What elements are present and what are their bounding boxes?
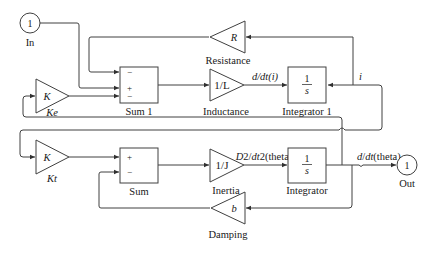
ke-label: Ke	[45, 107, 58, 118]
sum1-label: Sum 1	[125, 106, 152, 117]
integrator1-block[interactable]: 1 s	[288, 67, 326, 103]
integrator-numerator: 1	[305, 153, 310, 164]
integrator-block[interactable]: 1 s	[288, 148, 326, 183]
damping-block[interactable]: b	[211, 192, 245, 224]
in-port-label: In	[26, 37, 35, 48]
in-port[interactable]: 1	[20, 13, 40, 33]
sum-sign-1: +	[127, 152, 132, 162]
sum1-block[interactable]: − + −	[120, 67, 158, 103]
integrator1-denominator: s	[305, 85, 309, 96]
sum1-sign-1: −	[127, 67, 132, 77]
resistance-gain: R	[230, 32, 238, 43]
wire-in-to-sum1[interactable]	[40, 23, 119, 88]
damping-gain: b	[231, 203, 236, 214]
out-port-label: Out	[399, 178, 415, 189]
signal-dtheta: d/dt(theta)	[357, 151, 401, 163]
integrator1-numerator: 1	[305, 73, 310, 84]
sum1-sign-3: −	[127, 91, 132, 101]
sum-label: Sum	[129, 186, 148, 197]
kt-gain: K	[42, 152, 51, 163]
in-port-number: 1	[28, 18, 33, 29]
inductance-block[interactable]: 1/L	[210, 69, 244, 101]
signal-di-dt: d/dt(i)	[252, 71, 279, 83]
inductance-gain: 1/L	[214, 79, 230, 91]
inertia-label: Inertia	[212, 185, 240, 196]
out-port-number: 1	[405, 160, 410, 171]
integrator1-label: Integrator 1	[282, 106, 331, 117]
resistance-block[interactable]: R	[210, 21, 245, 53]
integrator-denominator: s	[305, 165, 309, 176]
kt-block[interactable]: K	[36, 140, 69, 174]
signal-i: i	[359, 71, 362, 82]
signal-d2theta: D2/dt2(theta)	[235, 151, 293, 163]
inertia-gain: 1/J	[216, 159, 230, 171]
ke-gain: K	[42, 91, 51, 102]
sum-block[interactable]: + −	[120, 148, 158, 183]
integrator-label: Integrator	[286, 185, 328, 196]
resistance-label: Resistance	[206, 55, 251, 66]
sum-sign-2: −	[127, 167, 132, 177]
damping-label: Damping	[208, 229, 248, 240]
block-diagram: 1 In R Resistance − + − Sum 1 K Ke 1/L I…	[0, 0, 438, 256]
inductance-label: Inductance	[203, 106, 249, 117]
out-port[interactable]: 1	[397, 155, 417, 175]
wire-integrator-to-out[interactable]	[326, 165, 396, 167]
kt-label: Kt	[46, 173, 58, 184]
